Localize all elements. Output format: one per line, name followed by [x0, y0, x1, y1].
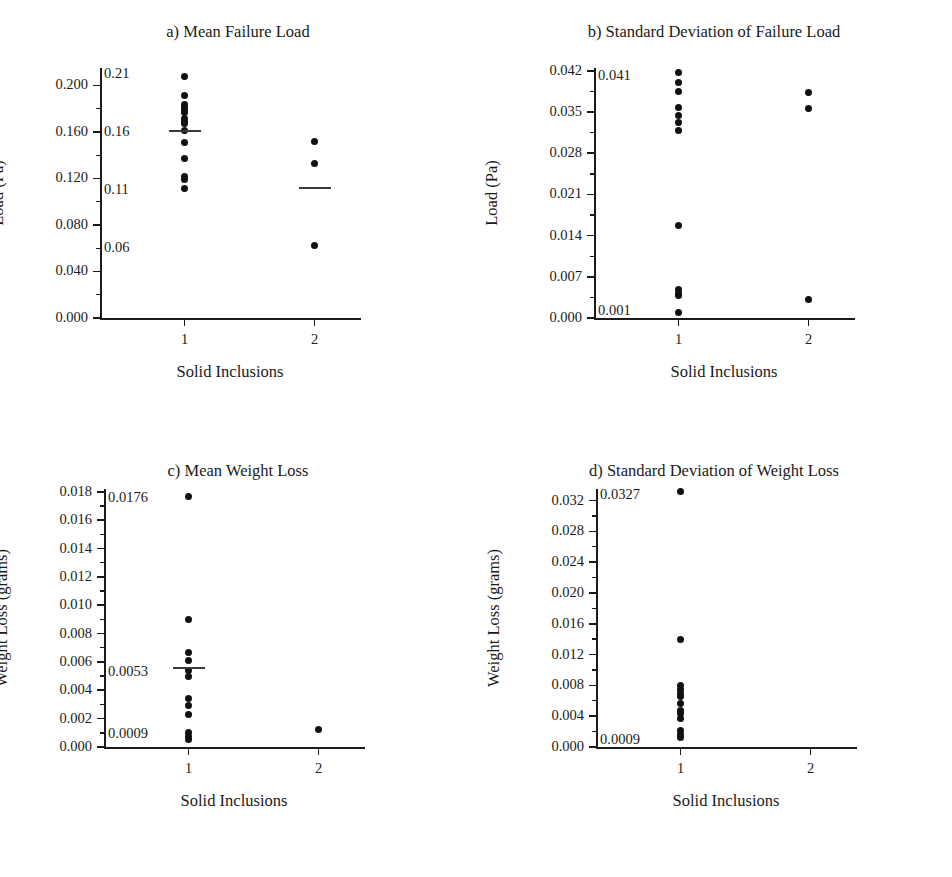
data-point-a-1-8	[181, 120, 188, 127]
y-tick-minor-d-3	[592, 638, 596, 639]
y-tick-major-a-1	[93, 271, 100, 273]
data-point-b-1-5	[675, 119, 682, 126]
y-axis-title-d: Weight Loss (grams)	[484, 549, 504, 687]
y-tick-minor-d-2	[592, 669, 596, 670]
data-point-b-1-11	[675, 309, 682, 316]
y-tick-label-b-4: 0.028	[508, 145, 582, 160]
y-tick-label-d-1: 0.004	[510, 708, 584, 723]
y-tick-label-c-3: 0.006	[18, 654, 92, 669]
y-tick-label-b-0: 0.000	[508, 310, 582, 325]
y-tick-minor-c-7	[100, 534, 104, 535]
data-point-c-2-0	[315, 726, 322, 733]
x-axis-title-c: Solid Inclusions	[64, 791, 404, 811]
y-tick-major-b-3	[587, 194, 594, 196]
y-tick-label-d-6: 0.024	[510, 554, 584, 569]
x-tick-c-0	[188, 748, 190, 755]
chart-panel-c: c) Mean Weight Loss 0.0000.0020.0040.006…	[0, 439, 476, 877]
data-point-d-1-6	[677, 700, 684, 707]
x-tick-label-d-0: 1	[651, 761, 711, 776]
y-tick-minor-d-1	[592, 700, 596, 701]
data-point-b-2-1	[805, 105, 812, 112]
y-tick-major-c-1	[97, 718, 104, 720]
y-tick-major-c-5	[97, 604, 104, 606]
y-tick-minor-d-5	[592, 577, 596, 578]
y-tick-label-d-8: 0.032	[510, 493, 584, 508]
panel-c-title: c) Mean Weight Loss	[0, 461, 476, 481]
inner-annotation-d-0: 0.0327	[600, 487, 640, 502]
y-tick-major-a-5	[93, 85, 100, 87]
x-tick-b-1	[808, 319, 810, 326]
data-point-a-1-11	[181, 155, 188, 162]
y-tick-label-a-0: 0.000	[14, 310, 88, 325]
y-tick-minor-c-4	[100, 619, 104, 620]
y-tick-major-a-3	[93, 178, 100, 180]
inner-annotation-b-0: 0.041	[598, 68, 631, 83]
inner-annotation-b-1: 0.001	[598, 303, 631, 318]
inner-annotation-c-0: 0.0176	[108, 490, 148, 505]
y-tick-minor-b-5	[590, 91, 594, 92]
x-tick-label-b-1: 2	[779, 332, 839, 347]
y-tick-minor-a-4	[96, 108, 100, 109]
data-point-b-1-2	[675, 88, 682, 95]
y-tick-major-b-1	[587, 276, 594, 278]
y-axis-title-a: Load (Pa)	[0, 160, 8, 226]
y-tick-label-c-0: 0.000	[18, 739, 92, 754]
y-tick-major-c-7	[97, 548, 104, 550]
y-tick-major-c-0	[97, 746, 104, 748]
y-tick-major-d-4	[589, 623, 596, 625]
y-tick-minor-c-0	[100, 732, 104, 733]
y-tick-label-d-2: 0.008	[510, 677, 584, 692]
chart-panel-d: d) Standard Deviation of Weight Loss 0.0…	[476, 439, 952, 877]
y-tick-minor-d-4	[592, 608, 596, 609]
x-tick-b-0	[678, 319, 680, 326]
plot-area-a: 0.0000.0400.0800.1200.1600.2000.210.160.…	[100, 68, 360, 318]
y-tick-label-c-1: 0.002	[18, 711, 92, 726]
data-point-b-2-2	[805, 296, 812, 303]
y-tick-label-b-5: 0.035	[508, 104, 582, 119]
y-tick-label-b-6: 0.042	[508, 63, 582, 78]
inner-annotation-a-1: 0.16	[104, 124, 129, 139]
y-tick-minor-b-2	[590, 214, 594, 215]
y-tick-minor-b-1	[590, 256, 594, 257]
y-tick-major-b-0	[587, 317, 594, 319]
x-tick-label-a-1: 2	[285, 332, 345, 347]
y-tick-major-c-9	[97, 491, 104, 493]
x-tick-d-1	[810, 748, 812, 755]
x-tick-label-d-1: 2	[781, 761, 841, 776]
inner-annotation-a-0: 0.21	[104, 66, 129, 81]
chart-panel-a: a) Mean Failure Load 0.0000.0400.0800.12…	[0, 0, 476, 438]
y-tick-major-a-4	[93, 131, 100, 133]
y-tick-label-c-8: 0.016	[18, 512, 92, 527]
data-point-b-1-10	[675, 292, 682, 299]
y-tick-minor-c-1	[100, 704, 104, 705]
y-tick-label-c-6: 0.012	[18, 569, 92, 584]
y-tick-minor-b-4	[590, 132, 594, 133]
y-tick-major-c-6	[97, 576, 104, 578]
y-tick-minor-c-3	[100, 647, 104, 648]
x-axis-title-b: Solid Inclusions	[554, 362, 894, 382]
data-point-a-1-14	[181, 185, 188, 192]
data-point-b-1-7	[675, 222, 682, 229]
y-tick-label-a-2: 0.080	[14, 217, 88, 232]
panel-b-title: b) Standard Deviation of Failure Load	[476, 22, 952, 42]
y-tick-major-d-0	[589, 746, 596, 748]
plot-area-d: 0.0000.0040.0080.0120.0160.0200.0240.028…	[596, 489, 856, 747]
plot-area-b: 0.0000.0070.0140.0210.0280.0350.0420.041…	[594, 68, 854, 318]
y-axis-title-c: Weight Loss (grams)	[0, 549, 12, 687]
panel-d-title: d) Standard Deviation of Weight Loss	[476, 461, 952, 481]
y-axis-line-d	[596, 489, 598, 748]
inner-annotation-c-1: 0.0053	[108, 664, 148, 679]
x-tick-label-a-0: 1	[155, 332, 215, 347]
y-tick-major-d-2	[589, 685, 596, 687]
data-point-c-1-0	[185, 493, 192, 500]
y-tick-label-a-1: 0.040	[14, 263, 88, 278]
y-tick-major-c-3	[97, 661, 104, 663]
y-tick-label-d-0: 0.000	[510, 739, 584, 754]
data-point-b-1-3	[675, 104, 682, 111]
inner-annotation-a-2: 0.11	[104, 182, 129, 197]
y-tick-minor-a-3	[96, 155, 100, 156]
plot-area-c: 0.0000.0020.0040.0060.0080.0100.0120.014…	[104, 489, 364, 747]
data-point-b-1-1	[675, 79, 682, 86]
y-tick-major-b-4	[587, 152, 594, 154]
y-tick-minor-c-6	[100, 562, 104, 563]
